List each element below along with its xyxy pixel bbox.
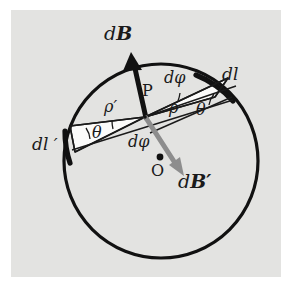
label-dl: dl: [222, 66, 238, 83]
label-point-P: P: [142, 83, 153, 99]
figure-root: dB dl dl ′ dφ dφ ρ ρ′ θ θ P O dB′: [0, 0, 291, 290]
center-point-O-dot: [157, 154, 164, 161]
label-rho-prime: ρ′: [104, 99, 117, 115]
label-point-O: O: [151, 163, 164, 179]
label-theta-right: θ: [196, 102, 206, 118]
label-dl-prime: dl ′: [32, 136, 58, 153]
label-dB: dB: [104, 24, 132, 43]
point-P-dot: [143, 115, 147, 119]
label-dB-prime: dB′: [178, 172, 211, 191]
label-rho: ρ: [169, 100, 178, 116]
arc-element-dl-prime: [65, 131, 70, 163]
label-d-phi-upper: dφ: [164, 70, 185, 86]
label-theta-left: θ: [92, 125, 102, 141]
label-d-phi-lower: dφ: [128, 134, 149, 150]
